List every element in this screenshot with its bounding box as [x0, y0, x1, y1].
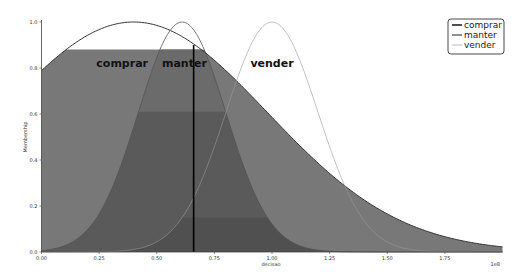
- y-tick-label: 0.2: [30, 203, 38, 209]
- x-tick-label: 0.50: [151, 255, 162, 261]
- membership-chart: 0.000.250.500.751.001.251.501.75 0.00.20…: [0, 0, 529, 279]
- y-tick-label: 1.0: [30, 19, 38, 25]
- y-axis-label: Membership: [22, 122, 29, 153]
- x-tick-label: 0.25: [94, 255, 105, 261]
- y-axis-ticks: 0.00.20.40.60.81.0: [30, 19, 42, 255]
- legend-label-vender: vender: [464, 40, 496, 50]
- x-axis-label: decisao: [261, 261, 280, 267]
- x-tick-label: 0.75: [209, 255, 220, 261]
- x-tick-label: 1.25: [324, 255, 335, 261]
- x-axis-scale-label: 1e8: [491, 261, 500, 267]
- x-axis-ticks: 0.000.250.500.751.001.251.501.75: [36, 252, 451, 261]
- legend: comprarmantervender: [448, 19, 504, 54]
- annotation-comprar: comprar: [96, 57, 148, 70]
- legend-label-comprar: comprar: [464, 20, 502, 30]
- y-tick-label: 0.0: [30, 249, 38, 255]
- y-tick-label: 0.4: [30, 157, 38, 163]
- x-tick-label: 1.75: [439, 255, 450, 261]
- annotation-manter: manter: [162, 57, 207, 70]
- y-tick-label: 0.6: [30, 111, 38, 117]
- y-tick-label: 0.8: [30, 65, 38, 71]
- legend-label-manter: manter: [464, 30, 497, 40]
- annotation-vender: vender: [250, 57, 294, 70]
- series-annotations: comprarmantervender: [96, 57, 294, 70]
- x-tick-label: 0.00: [36, 255, 47, 261]
- x-tick-label: 1.50: [382, 255, 393, 261]
- aggregated-fill-area: [42, 50, 503, 252]
